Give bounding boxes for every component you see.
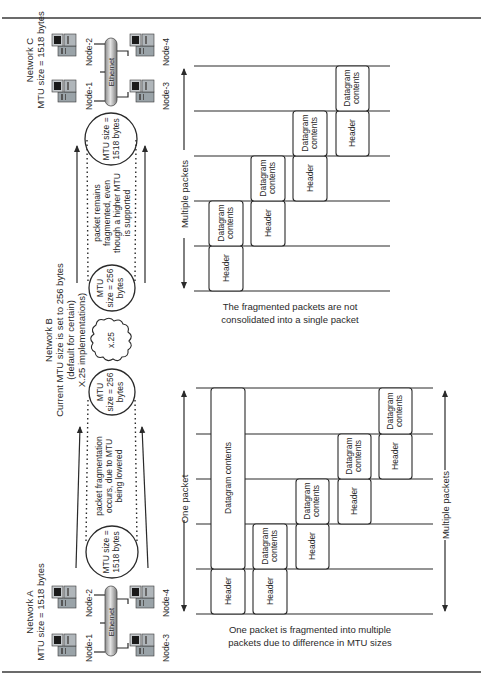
network-b-mtu: Current MTU size is set to 256 bytes [54, 263, 65, 417]
svg-text:1518 bytes: 1518 bytes [111, 118, 121, 160]
computer-icon [52, 634, 76, 656]
svg-text:consolidated into a single pac: consolidated into a single packet [221, 314, 359, 325]
svg-text:Header: Header [263, 209, 273, 237]
computer-icon [130, 634, 154, 656]
node-label: Node-4 [161, 38, 171, 66]
svg-text:MTU size =: MTU size = [101, 530, 111, 573]
packet-fragment: Header Datagram contents [293, 111, 327, 201]
svg-text:contents: contents [353, 440, 363, 472]
bottom-diagram-caption: One packet is fragmented into multiple [229, 624, 391, 635]
svg-text:contents: contents [394, 395, 404, 427]
svg-text:contents: contents [309, 117, 319, 149]
svg-text:packet remains: packet remains [92, 184, 102, 242]
svg-text:is supported: is supported [122, 190, 132, 237]
mtu-fragmentation-diagram: Network C MTU size = 1518 bytes Ethernet… [0, 0, 481, 682]
svg-text:contents: contents [267, 162, 277, 194]
svg-text:fragmented, even: fragmented, even [102, 180, 112, 246]
svg-text:Header: Header [307, 532, 317, 560]
computer-icon [52, 34, 76, 56]
svg-text:bytes: bytes [115, 278, 125, 298]
dotted-boundary [86, 400, 88, 543]
packet-fragment: Header Datagram contents [336, 66, 369, 156]
svg-text:Header: Header [223, 577, 233, 605]
one-packet-label: One packet [179, 474, 190, 523]
node-label: Node-2 [84, 589, 94, 617]
dotted-boundary [135, 400, 137, 543]
svg-text:x.25: x.25 [106, 332, 116, 348]
svg-text:Header: Header [347, 119, 357, 147]
computer-icon [130, 80, 154, 102]
svg-text:packet fragmentation: packet fragmentation [94, 436, 104, 516]
ethernet-label-c: Ethernet [107, 57, 116, 86]
svg-text:Header: Header [221, 254, 231, 282]
svg-text:Datagram contents: Datagram contents [223, 442, 233, 514]
computer-icon [52, 586, 76, 608]
top-diagram-caption: The fragmented packets are not [223, 301, 358, 312]
node-label: Node-2 [84, 38, 94, 66]
packet-fragment: Header Datagram contents [251, 156, 285, 246]
dotted-boundary [135, 140, 136, 281]
node-label: Node-1 [84, 634, 94, 662]
computer-icon [130, 586, 154, 608]
remains-fragmented-note: packet remains fragmented, even though a… [92, 173, 132, 253]
network-a-title: Network A [24, 590, 35, 634]
network-c-mtu: MTU size = 1518 bytes [35, 11, 46, 109]
svg-text:Header: Header [305, 164, 315, 192]
multiple-packets-label: Multiple packets [440, 471, 451, 539]
x25-cloud-icon: x.25 [91, 318, 132, 360]
svg-text:X.25 implementations): X.25 implementations) [76, 293, 87, 388]
node-label: Node-3 [161, 82, 171, 110]
network-c: Network C MTU size = 1518 bytes Ethernet… [24, 11, 171, 110]
svg-text:size = 256: size = 256 [105, 268, 115, 307]
network-b-title: Network B [43, 318, 54, 362]
fragmentation-note: packet fragmentation occurs, due to MTU … [94, 436, 124, 516]
svg-text:contents: contents [351, 72, 361, 104]
node-label: Node-3 [161, 634, 171, 662]
svg-text:being lowered: being lowered [114, 449, 124, 502]
svg-text:(default for certain): (default for certain) [65, 300, 76, 380]
packet-fragment: Header Datagram contents [209, 201, 243, 291]
svg-text:Header: Header [390, 442, 400, 470]
flow-arrow [76, 427, 80, 568]
ethernet-label-a: Ethernet [107, 607, 116, 636]
mtu-circle-b-right: MTU size = 256 bytes [89, 265, 135, 311]
top-diagram-label: Multiple packets [179, 160, 190, 228]
network-a: Network A MTU size = 1518 bytes Ethernet… [24, 563, 171, 662]
dotted-boundary [87, 140, 88, 281]
svg-text:MTU size =: MTU size = [101, 117, 111, 160]
svg-text:bytes: bytes [115, 382, 125, 402]
svg-text:size = 256: size = 256 [105, 372, 115, 411]
mtu-circle-c: MTU size = 1518 bytes [85, 113, 137, 165]
svg-text:MTU: MTU [95, 279, 105, 297]
packet-fragment: Header Datagram contents [379, 388, 412, 479]
svg-text:occurs, due to MTU: occurs, due to MTU [104, 439, 114, 513]
flow-arrow [142, 427, 148, 568]
svg-text:Header: Header [349, 487, 359, 515]
ethernet-cylinder-a: Ethernet [105, 586, 117, 656]
ethernet-cylinder-c: Ethernet [105, 38, 117, 106]
network-c-title: Network C [24, 38, 35, 82]
svg-text:1518 bytes: 1518 bytes [111, 531, 121, 573]
mtu-circle-a: MTU size = 1518 bytes [86, 526, 138, 578]
bottom-packet-diagram: One packet Multiple packets Header Datag… [179, 388, 451, 648]
top-packet-diagram: Multiple packets Header Datagram content… [179, 66, 390, 325]
node-label: Node-4 [161, 589, 171, 617]
svg-text:contents: contents [225, 207, 235, 239]
packet-fragment: Header Datagram contents [296, 479, 329, 569]
packet-fragment: Header Datagram contents [253, 524, 287, 614]
svg-text:Header: Header [265, 577, 275, 605]
original-packet: Header Datagram contents [211, 388, 245, 614]
svg-text:packets due to difference in M: packets due to difference in MTU sizes [228, 637, 392, 648]
svg-text:contents: contents [311, 485, 321, 517]
svg-text:contents: contents [269, 530, 279, 562]
network-a-mtu: MTU size = 1518 bytes [35, 563, 46, 661]
mtu-circle-b-left: MTU size = 256 bytes [89, 369, 135, 415]
packet-fragment: Header Datagram contents [338, 434, 371, 524]
computer-icon [130, 34, 154, 56]
svg-text:though a higher MTU: though a higher MTU [112, 173, 122, 253]
computer-icon [52, 80, 76, 102]
node-label: Node-1 [84, 82, 94, 110]
svg-text:MTU: MTU [95, 383, 105, 401]
